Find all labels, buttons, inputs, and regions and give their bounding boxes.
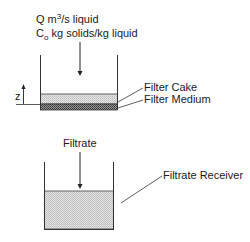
filter-vessel [41,55,118,110]
filtrate-label: Filtrate [63,137,97,149]
filter-cake-leader [118,88,143,102]
filtrate-receiver-label: Filtrate Receiver [163,169,243,181]
filter-medium-label: Filter Medium [144,93,211,105]
filtrate-liquid [45,191,114,229]
filter-cake-layer [41,94,118,104]
filter-medium-leader [118,100,143,108]
filtration-diagram: Q m3/s liquid Co kg solids/kg liquid z F… [0,0,250,242]
feed-arrowhead-icon [78,71,83,76]
filter-cake-label: Filter Cake [144,81,197,93]
filtrate-receiver-leader [121,176,162,203]
filter-medium-layer [41,104,118,110]
feed-concentration-label: Co kg solids/kg liquid [36,27,138,42]
filtrate-arrowhead-icon [78,184,83,189]
z-label: z [15,90,21,102]
feed-flow-label: Q m3/s liquid [36,12,99,25]
filtrate-receiver-vessel [44,162,114,230]
z-arrowhead-icon [22,84,26,89]
